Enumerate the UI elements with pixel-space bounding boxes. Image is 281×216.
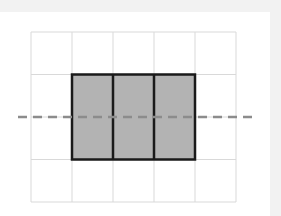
grid-diagram xyxy=(0,0,281,216)
